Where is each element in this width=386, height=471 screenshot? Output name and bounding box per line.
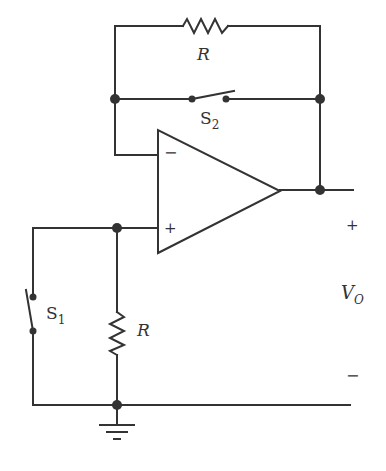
feedback-resistor-branch (115, 19, 320, 99)
output-branch (280, 99, 353, 195)
output-voltage-subscript: O (354, 293, 364, 307)
shunt-resistor-label: R (137, 322, 150, 339)
schematic-drawing (0, 0, 386, 471)
inverting-input-wire (115, 99, 158, 155)
switch-s1-letter: S (46, 303, 58, 323)
feedback-resistor-icon (183, 19, 228, 33)
output-voltage-label: VO (341, 284, 364, 302)
switch-s1-label: S1 (46, 305, 65, 322)
circuit-diagram: R S2 − + S1 R + VO − (0, 0, 386, 471)
output-voltage-letter: V (341, 282, 354, 303)
switch-s2-letter: S (200, 108, 212, 128)
switch-s2-label: S2 (200, 110, 219, 127)
ground-icon (100, 425, 134, 439)
feedback-resistor-label: R (197, 46, 210, 63)
shunt-resistor-icon (110, 312, 124, 355)
inverting-input-label: − (164, 145, 177, 161)
output-minus-label: − (346, 368, 359, 384)
output-plus-label: + (346, 218, 359, 233)
switch-s2-subscript: 2 (212, 118, 220, 132)
switch-s1-subscript: 1 (58, 313, 66, 327)
noninverting-input-label: + (164, 221, 177, 236)
feedback-switch-branch (110, 91, 325, 104)
ground-rail (33, 400, 350, 439)
